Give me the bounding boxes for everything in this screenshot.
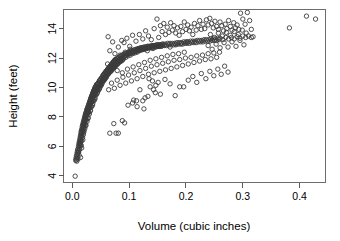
x-tick-label: 0.3 <box>236 190 251 202</box>
y-tick-label: 14 <box>47 23 59 35</box>
y-tick-label: 6 <box>47 143 59 149</box>
plot-canvas: 0.00.10.20.30.4 468101214 Volume (cubic … <box>0 0 340 241</box>
y-tick-label: 10 <box>47 82 59 94</box>
x-tick-label: 0.0 <box>65 190 80 202</box>
y-tick-label: 4 <box>47 173 59 179</box>
scatter-plot-figure: 0.00.10.20.30.4 468101214 Volume (cubic … <box>0 0 340 241</box>
x-tick-label: 0.2 <box>179 190 194 202</box>
y-tick-label: 8 <box>47 114 59 120</box>
x-tick-label: 0.1 <box>122 190 137 202</box>
y-tick-label: 12 <box>47 52 59 64</box>
y-axis-title: Height (feet) <box>7 64 19 127</box>
x-tick-label: 0.4 <box>292 190 307 202</box>
x-axis-title: Volume (cubic inches) <box>138 220 251 232</box>
